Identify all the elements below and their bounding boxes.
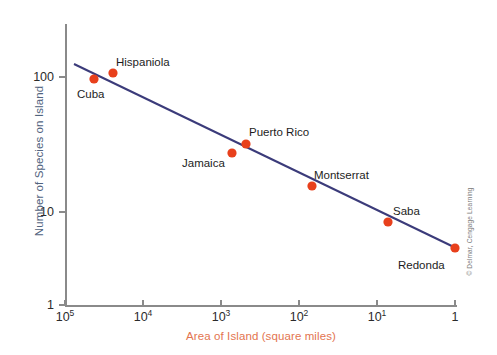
point-label-puerto-rico: Puerto Rico [249, 127, 309, 139]
point-label-jamaica: Jamaica [182, 158, 225, 170]
y-axis-line [65, 24, 67, 306]
data-point-cuba [89, 74, 98, 83]
y-tick-label: 1 [18, 299, 54, 312]
plot-area [0, 0, 497, 355]
chart-figure: 100101 1051041031021011 Number of Specie… [0, 0, 497, 355]
data-point-jamaica [227, 148, 236, 157]
x-tick-label: 104 [134, 311, 153, 324]
data-point-hispaniola [108, 68, 117, 77]
x-tick-label: 102 [290, 311, 309, 324]
point-label-hispaniola: Hispaniola [116, 57, 170, 69]
x-tick-mark [142, 300, 144, 306]
x-tick-mark [220, 300, 222, 306]
x-tick-mark [454, 300, 456, 306]
x-tick-mark [64, 300, 66, 306]
copyright-credit: © Delmar, Cengage Learning [466, 167, 473, 297]
data-point-puerto-rico [241, 139, 250, 148]
point-label-cuba: Cuba [77, 89, 105, 101]
data-point-saba [383, 217, 392, 226]
x-tick-label: 101 [368, 311, 387, 324]
x-axis-title: Area of Island (square miles) [65, 330, 457, 342]
point-label-saba: Saba [393, 206, 420, 218]
data-point-group [89, 68, 459, 252]
x-tick-mark [376, 300, 378, 306]
x-axis-line [65, 305, 457, 307]
point-label-redonda: Redonda [398, 260, 445, 272]
y-tick-mark [59, 76, 65, 78]
x-tick-label: 103 [212, 311, 231, 324]
trend-line [74, 64, 458, 249]
x-tick-mark [298, 300, 300, 306]
y-tick-mark [59, 211, 65, 213]
x-tick-label: 1 [452, 311, 459, 324]
x-tick-label: 105 [56, 311, 75, 324]
y-axis-title: Number of Species on Island [33, 46, 45, 276]
data-point-montserrat [307, 181, 316, 190]
point-label-montserrat: Montserrat [314, 170, 369, 182]
data-point-redonda [450, 243, 459, 252]
